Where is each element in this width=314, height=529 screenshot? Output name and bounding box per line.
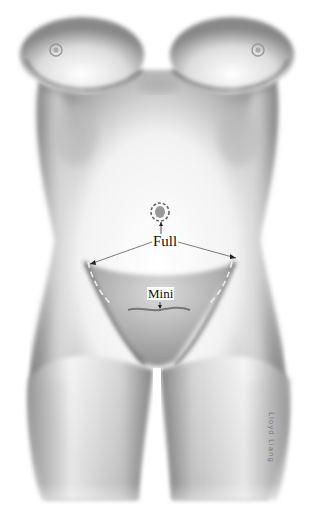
full-label: Full bbox=[152, 234, 178, 249]
mini-label: Mini bbox=[147, 287, 174, 300]
artist-signature: Lloyd Liang bbox=[267, 412, 275, 463]
